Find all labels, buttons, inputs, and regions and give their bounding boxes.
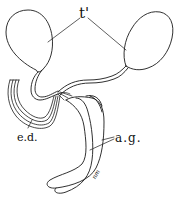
label-ejaculatory-duct: e.d. <box>17 132 38 143</box>
right-testis <box>124 12 173 70</box>
left-vas-deferens <box>31 70 58 100</box>
anatomical-figure: t' e.d. a.g. nm <box>0 0 179 198</box>
label-accessory-glands: a.g. <box>115 132 141 144</box>
duct-junction <box>58 92 72 100</box>
ejaculatory-duct <box>8 80 60 128</box>
testes-leader-lines <box>48 18 126 50</box>
figure-drawing <box>0 0 179 198</box>
left-testis <box>6 10 53 72</box>
right-vas-deferens <box>58 66 128 95</box>
label-testes: t' <box>79 6 89 21</box>
